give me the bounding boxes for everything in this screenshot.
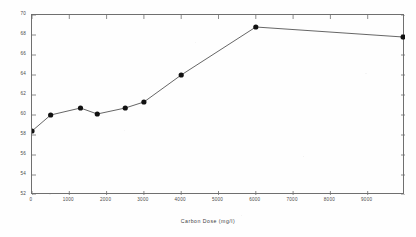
data-point: [123, 105, 128, 110]
y-tick-label: 62: [6, 92, 26, 97]
data-point: [95, 111, 100, 116]
x-tick-label: 8000: [314, 198, 344, 203]
x-tick-label: 0: [16, 198, 46, 203]
y-tick-label: 54: [6, 172, 26, 177]
tick-marks: [32, 15, 405, 195]
x-tick-label: 3000: [128, 198, 158, 203]
x-tick-label: 2000: [91, 198, 121, 203]
data-point: [48, 112, 53, 117]
x-tick-label: 7000: [277, 198, 307, 203]
data-point: [141, 99, 146, 104]
y-tick-label: 64: [6, 72, 26, 77]
x-tick-label: 5000: [203, 198, 233, 203]
x-tick-label: 6000: [240, 198, 270, 203]
y-tick-label: 52: [6, 192, 26, 197]
x-axis-title: Carbon Dose (mg/l): [0, 218, 416, 224]
chart-figure: 52545658606264666870 0100020003000400050…: [0, 0, 416, 237]
y-tick-label: 56: [6, 152, 26, 157]
y-tick-label: 70: [6, 12, 26, 17]
data-point: [179, 72, 184, 77]
y-tick-label: 66: [6, 52, 26, 57]
y-tick-label: 68: [6, 32, 26, 37]
y-tick-label: 60: [6, 112, 26, 117]
data-point: [78, 105, 83, 110]
y-tick-label: 58: [6, 132, 26, 137]
x-tick-label: 4000: [165, 198, 195, 203]
plot-area: [31, 14, 404, 194]
x-tick-label: 1000: [53, 198, 83, 203]
x-tick-label: 9000: [352, 198, 382, 203]
data-point: [253, 24, 258, 29]
data-markers: [32, 24, 405, 133]
data-line: [32, 27, 403, 131]
chart-svg: [32, 15, 405, 195]
